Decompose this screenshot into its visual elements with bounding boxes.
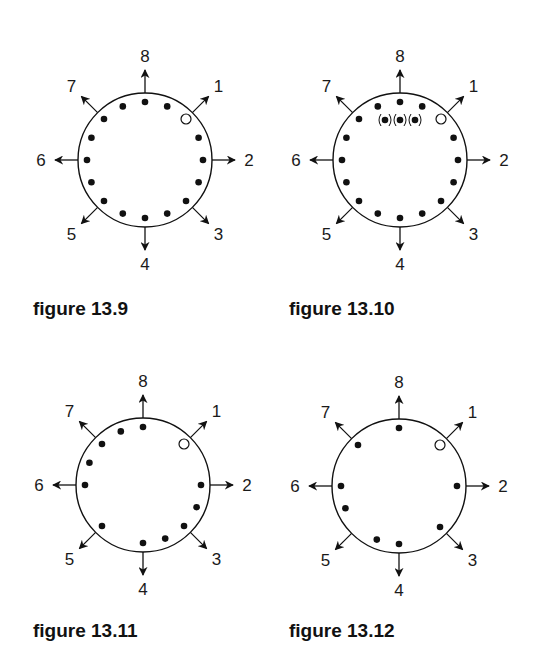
- figure-caption-13-12: figure 13.12: [289, 620, 395, 642]
- direction-label-5: 5: [322, 225, 331, 244]
- direction-label-1: 1: [469, 77, 478, 96]
- direction-label-3: 3: [214, 225, 223, 244]
- outline-circle: [332, 419, 466, 553]
- direction-label-5: 5: [67, 225, 76, 244]
- parenthesized-dot: [382, 117, 389, 124]
- figure-13-11-diagram: 12345678: [34, 372, 251, 599]
- direction-label-8: 8: [138, 372, 147, 391]
- outline-circle: [333, 93, 467, 227]
- filled-dot: [82, 482, 89, 489]
- left-parenthesis: [409, 114, 411, 126]
- filled-dot: [120, 210, 127, 217]
- direction-arrow-icon: [190, 532, 206, 548]
- filled-dot: [164, 210, 171, 217]
- direction-label-1: 1: [212, 402, 221, 421]
- figure-13-10-diagram: 12345678: [291, 47, 508, 274]
- filled-dot: [450, 179, 457, 186]
- filled-dot: [140, 540, 147, 547]
- direction-arrow-icon: [192, 207, 208, 223]
- figure-caption-13-11: figure 13.11: [33, 620, 138, 642]
- direction-label-8: 8: [140, 47, 149, 66]
- direction-label-3: 3: [469, 225, 478, 244]
- filled-dot: [419, 103, 426, 110]
- parenthesized-dot: [412, 117, 419, 124]
- open-circle-marker: [435, 440, 445, 450]
- filled-dot: [338, 483, 345, 490]
- filled-dot: [101, 116, 108, 123]
- filled-dot: [342, 505, 349, 512]
- filled-dot: [343, 135, 350, 142]
- filled-dot: [375, 210, 382, 217]
- direction-arrow-icon: [81, 207, 97, 223]
- right-parenthesis: [389, 114, 391, 126]
- direction-arrow-icon: [336, 207, 352, 223]
- right-parenthesis: [419, 114, 421, 126]
- direction-arrow-icon: [447, 96, 463, 112]
- filled-dot: [99, 523, 106, 530]
- filled-dot: [118, 428, 125, 435]
- filled-dot: [355, 442, 362, 449]
- filled-dot: [86, 460, 93, 467]
- filled-dot: [339, 157, 346, 164]
- direction-label-2: 2: [242, 476, 251, 495]
- direction-label-1: 1: [214, 77, 223, 96]
- direction-label-4: 4: [138, 580, 147, 599]
- direction-label-4: 4: [395, 255, 404, 274]
- filled-dot: [140, 424, 147, 431]
- outline-circle: [76, 418, 210, 552]
- filled-dot: [193, 504, 200, 511]
- direction-label-6: 6: [291, 151, 300, 170]
- direction-label-4: 4: [140, 255, 149, 274]
- direction-label-2: 2: [498, 477, 507, 496]
- filled-dot: [438, 198, 445, 205]
- filled-dot: [356, 198, 363, 205]
- diagram-canvas: 12345678 12345678 12345678 12345678: [0, 0, 554, 662]
- filled-dot: [374, 536, 381, 543]
- left-parenthesis: [379, 114, 381, 126]
- open-circle-marker: [181, 114, 191, 124]
- direction-label-2: 2: [244, 151, 253, 170]
- filled-dot: [84, 157, 91, 164]
- filled-dot: [195, 179, 202, 186]
- direction-arrow-icon: [81, 96, 97, 112]
- open-circle-marker: [179, 439, 189, 449]
- direction-arrow-icon: [446, 422, 462, 438]
- filled-dot: [396, 541, 403, 548]
- direction-label-3: 3: [468, 551, 477, 570]
- direction-label-7: 7: [67, 77, 76, 96]
- direction-label-8: 8: [395, 47, 404, 66]
- filled-dot: [437, 524, 444, 531]
- direction-label-2: 2: [499, 151, 508, 170]
- direction-label-6: 6: [34, 476, 43, 495]
- filled-dot: [88, 135, 95, 142]
- direction-label-5: 5: [65, 550, 74, 569]
- figure-13-12-diagram: 12345678: [290, 373, 507, 600]
- direction-arrow-icon: [447, 207, 463, 223]
- direction-arrow-icon: [79, 532, 95, 548]
- filled-dot: [198, 482, 205, 489]
- direction-arrow-icon: [335, 533, 351, 549]
- direction-label-5: 5: [321, 551, 330, 570]
- direction-label-1: 1: [468, 403, 477, 422]
- direction-arrow-icon: [79, 421, 95, 437]
- filled-dot: [200, 157, 207, 164]
- outline-circle: [78, 93, 212, 227]
- filled-dot: [397, 99, 404, 106]
- direction-label-6: 6: [290, 477, 299, 496]
- filled-dot: [396, 425, 403, 432]
- filled-dot: [142, 99, 149, 106]
- filled-dot: [450, 135, 457, 142]
- direction-arrow-icon: [190, 421, 206, 437]
- filled-dot: [120, 103, 127, 110]
- figure-13-9-diagram: 12345678: [36, 47, 253, 274]
- filled-dot: [99, 441, 106, 448]
- filled-dot: [183, 198, 190, 205]
- direction-arrow-icon: [446, 533, 462, 549]
- direction-label-7: 7: [322, 77, 331, 96]
- direction-label-8: 8: [394, 373, 403, 392]
- filled-dot: [195, 135, 202, 142]
- filled-dot: [454, 483, 461, 490]
- direction-label-3: 3: [212, 550, 221, 569]
- left-parenthesis: [394, 114, 396, 126]
- direction-label-7: 7: [65, 402, 74, 421]
